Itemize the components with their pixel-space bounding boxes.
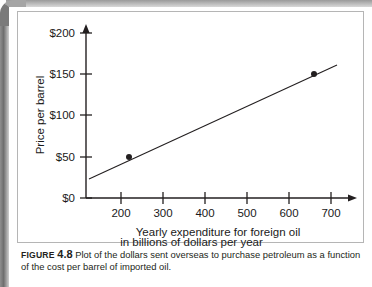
page-edge-top — [6, 0, 372, 7]
x-tick-label-600: 600 — [279, 207, 298, 219]
y-axis-title: Price per barrel — [34, 76, 46, 155]
x-tick-label-300: 300 — [153, 207, 172, 219]
chart-area: $0 $50 $100 $150 $200 200 300 400 — [18, 12, 365, 244]
figure-number: 4.8 — [57, 248, 72, 260]
x-tick-label-200: 200 — [111, 207, 130, 219]
x-tick-label-700: 700 — [321, 207, 340, 219]
x-tick-label-500: 500 — [237, 207, 256, 219]
y-tick-label-0: $0 — [62, 192, 75, 204]
page-edge-left — [0, 6, 9, 287]
x-tick-label-400: 400 — [195, 207, 214, 219]
data-point-2 — [311, 71, 317, 77]
line-chart: $0 $50 $100 $150 $200 200 300 400 — [18, 12, 365, 244]
y-axis-arrow-icon — [82, 24, 89, 33]
x-axis-title-line2: in billions of dollars per year — [18, 236, 365, 248]
figure-caption: FIGURE 4.8 Plot of the dollars sent over… — [21, 248, 361, 273]
figure-label-word: FIGURE — [21, 250, 55, 260]
y-tick-label-150: $150 — [49, 68, 75, 80]
chart-plot-box: $0 $50 $100 $150 $200 200 300 400 — [17, 11, 364, 243]
y-tick-label-200: $200 — [49, 27, 75, 39]
figure-page-frame: $0 $50 $100 $150 $200 200 300 400 — [0, 0, 372, 287]
y-tick-label-100: $100 — [49, 109, 75, 121]
data-point-1 — [126, 154, 132, 160]
y-tick-label-50: $50 — [56, 151, 75, 163]
data-line — [89, 65, 337, 179]
x-axis-arrow-icon — [348, 194, 357, 201]
